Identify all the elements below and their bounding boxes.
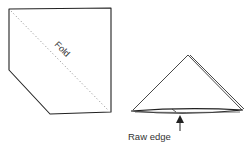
napkin-folded-triangle [131, 55, 244, 113]
fold-line [11, 11, 108, 110]
raw-edge-label: Raw edge [128, 131, 171, 142]
raw-edge-arrow-icon [176, 115, 184, 131]
napkin-unfolded: Fold [9, 8, 111, 114]
diagram-canvas: Fold Raw edge [0, 0, 250, 153]
